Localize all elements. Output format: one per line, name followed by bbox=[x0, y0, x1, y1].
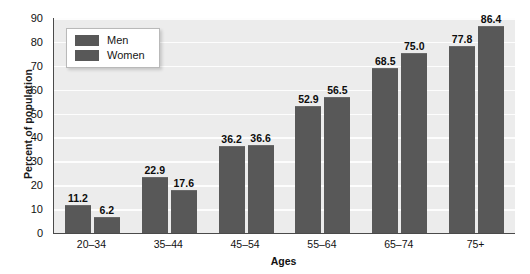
bar-women-20–34 bbox=[94, 217, 120, 233]
bar-women-75+ bbox=[478, 26, 504, 233]
bar-men-65–74 bbox=[372, 68, 398, 233]
y-tick-label: 40 bbox=[31, 131, 43, 143]
bar-men-75+ bbox=[449, 46, 475, 233]
y-tick-label: 20 bbox=[31, 179, 43, 191]
y-tick-label: 80 bbox=[31, 36, 43, 48]
bar-women-65–74 bbox=[401, 53, 427, 233]
bar-value-label: 52.9 bbox=[298, 93, 318, 105]
bar-value-label: 68.5 bbox=[375, 55, 395, 67]
legend-item-men: Men bbox=[75, 35, 145, 46]
bar-value-label: 36.2 bbox=[221, 133, 241, 145]
x-tick-label: 35–44 bbox=[154, 238, 183, 250]
bar-value-label: 75.0 bbox=[404, 40, 424, 52]
bar-value-label: 11.2 bbox=[68, 192, 88, 204]
bar-women-45–54 bbox=[248, 145, 274, 233]
x-tick-label: 45–54 bbox=[230, 238, 259, 250]
y-tick-label: 0 bbox=[37, 227, 43, 239]
chart-legend: Men Women bbox=[66, 28, 160, 68]
x-tick-label: 20–34 bbox=[77, 238, 106, 250]
y-axis-tick-labels: 0102030405060708090 bbox=[0, 18, 48, 233]
bar-men-35–44 bbox=[142, 177, 168, 233]
y-tick-label: 50 bbox=[31, 108, 43, 120]
y-tick-label: 10 bbox=[31, 203, 43, 215]
bar-value-label: 77.8 bbox=[452, 33, 472, 45]
legend-swatch-men bbox=[75, 35, 99, 46]
x-tick-label: 75+ bbox=[467, 238, 485, 250]
bar-value-label: 36.6 bbox=[250, 132, 270, 144]
bar-men-45–54 bbox=[219, 146, 245, 233]
x-tick-label: 55–64 bbox=[307, 238, 336, 250]
y-tick-label: 90 bbox=[31, 12, 43, 24]
bar-value-label: 17.6 bbox=[174, 177, 194, 189]
x-axis-tick-labels: 20–3435–4445–5455–6465–7475+ bbox=[53, 238, 514, 254]
legend-swatch-women bbox=[75, 50, 99, 61]
bar-value-label: 56.5 bbox=[327, 84, 347, 96]
legend-label-women: Women bbox=[107, 50, 145, 61]
legend-item-women: Women bbox=[75, 50, 145, 61]
x-tick-label: 65–74 bbox=[384, 238, 413, 250]
y-tick-label: 60 bbox=[31, 84, 43, 96]
y-tick-label: 30 bbox=[31, 155, 43, 167]
bar-chart: Percent of population 010203040506070809… bbox=[0, 0, 530, 274]
bar-value-label: 86.4 bbox=[481, 13, 501, 25]
legend-label-men: Men bbox=[107, 35, 128, 46]
bar-women-55–64 bbox=[324, 97, 350, 233]
bar-value-label: 22.9 bbox=[145, 164, 165, 176]
x-axis-title: Ages bbox=[53, 255, 514, 267]
bar-men-20–34 bbox=[65, 205, 91, 233]
bar-women-35–44 bbox=[171, 190, 197, 233]
y-tick-label: 70 bbox=[31, 60, 43, 72]
bar-value-label: 6.2 bbox=[100, 204, 115, 216]
bar-men-55–64 bbox=[295, 106, 321, 233]
